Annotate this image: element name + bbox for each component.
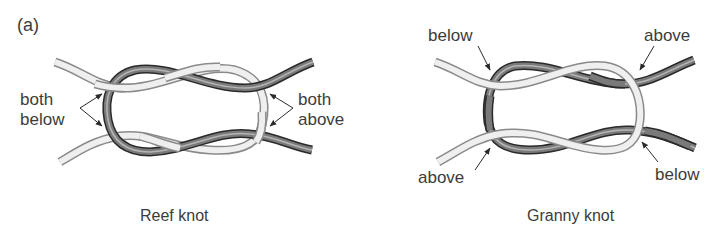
granny-top-left-label: below bbox=[428, 26, 472, 45]
granny-top-right-label: above bbox=[644, 26, 690, 45]
reef-knot-caption: Reef knot bbox=[140, 207, 208, 225]
granny-bottom-right-label: below bbox=[655, 165, 699, 184]
reef-left-label-line2: below bbox=[20, 110, 64, 129]
granny-knot-caption: Granny knot bbox=[527, 207, 614, 225]
granny-bottom-left-label: above bbox=[418, 168, 464, 187]
reef-knot bbox=[55, 62, 313, 162]
granny-knot bbox=[435, 46, 695, 170]
knot-diagram bbox=[0, 0, 724, 241]
reef-right-label-line2: above bbox=[298, 110, 344, 129]
reef-left-label-line1: both bbox=[20, 90, 53, 109]
granny-arrows bbox=[475, 46, 658, 170]
reef-right-label-line1: both bbox=[298, 90, 331, 109]
